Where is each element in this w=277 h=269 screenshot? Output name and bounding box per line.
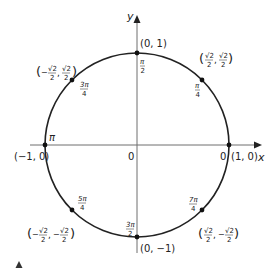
angle-7pi-over-4-den: 4 (191, 205, 196, 213)
angle-3pi-over-4-num: 3π (80, 81, 89, 89)
coord-7pi-over-4: ( √2 2 , − √2 2 ) (198, 226, 239, 244)
paren-open: ( (198, 226, 203, 241)
angle-pi-over-4-num: π (195, 82, 200, 90)
y-axis-label: y (126, 10, 134, 23)
y-den: 2 (62, 236, 66, 244)
unit-circle-diagram: y x 0 (0, 1) π 2 (0, −1) 3π 2 (−1, 0) π … (0, 0, 277, 269)
point-pi-over-4 (200, 78, 205, 83)
angle-pi-over-2-den: 2 (141, 67, 145, 75)
y-den: 2 (64, 74, 68, 82)
y-den: 2 (221, 61, 225, 69)
point-pi-over-2 (135, 51, 140, 56)
y-sign: − (53, 230, 60, 239)
comma: , (214, 55, 217, 65)
coord-0-neg1: (0, −1) (140, 243, 175, 254)
point-0 (227, 143, 232, 148)
angle-5pi-over-4-den: 4 (80, 204, 85, 212)
x-num: √2 (204, 227, 213, 235)
x-den: 2 (206, 236, 210, 244)
x-axis-arrow-icon (254, 142, 262, 149)
angle-pi-over-2-num: π (140, 58, 145, 66)
x-sign: − (32, 230, 39, 239)
x-num: √2 (48, 65, 57, 73)
triangle-marker-icon (16, 261, 23, 268)
origin-label: 0 (128, 151, 134, 162)
y-num: √2 (62, 65, 71, 73)
paren-close: ) (234, 226, 239, 241)
y-num: √2 (60, 227, 69, 235)
paren-close: ) (228, 51, 233, 66)
point-5pi-over-4 (70, 208, 75, 213)
x-num: √2 (205, 52, 214, 60)
angle-pi-over-4-den: 4 (196, 91, 201, 99)
point-3pi-over-2 (135, 235, 140, 240)
x-num: √2 (39, 227, 48, 235)
paren-close: ) (70, 226, 75, 241)
y-sign: − (218, 230, 225, 239)
point-7pi-over-4 (200, 208, 205, 213)
angle-7pi-over-4-num: 7π (189, 196, 198, 204)
angle-pi-label: π (49, 132, 56, 143)
paren-close: ) (72, 64, 77, 79)
paren-open: ( (199, 51, 204, 66)
angle-3pi-over-4-den: 4 (82, 90, 87, 98)
x-sign: − (41, 68, 48, 77)
coord-neg1-0: (−1, 0) (14, 151, 49, 162)
y-num: √2 (219, 52, 228, 60)
x-den: 2 (207, 61, 211, 69)
comma: , (57, 68, 60, 78)
y-den: 2 (227, 236, 231, 244)
angle-3pi-over-2-den: 2 (128, 230, 132, 238)
angle-3pi-over-2-num: 3π (126, 221, 135, 229)
comma: , (48, 230, 51, 240)
x-den: 2 (50, 74, 54, 82)
coord-1-0: (1, 0) (231, 151, 258, 162)
x-axis-label: x (257, 151, 265, 164)
coord-5pi-over-4: ( − √2 2 , − √2 2 ) (27, 226, 75, 244)
y-axis-arrow-icon (134, 15, 141, 23)
coord-0-1: (0, 1) (140, 38, 167, 49)
angle-5pi-over-4-num: 5π (78, 195, 87, 203)
coord-pi-over-4: ( √2 2 , √2 2 ) (199, 51, 233, 69)
point-pi (43, 143, 48, 148)
y-num: √2 (225, 227, 234, 235)
comma: , (213, 230, 216, 240)
angle-zero-label: 0 (220, 151, 226, 162)
x-den: 2 (41, 236, 45, 244)
